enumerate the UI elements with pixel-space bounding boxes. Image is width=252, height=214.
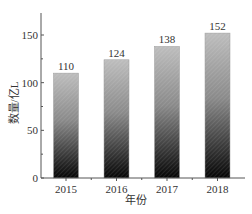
y-tick-label: 50 (27, 124, 39, 136)
x-tick-label: 2015 (55, 183, 78, 195)
bar-hatch (54, 73, 79, 178)
bar-hatch (155, 46, 180, 178)
bars-group (54, 33, 231, 178)
y-tick-label: 0 (33, 172, 39, 184)
bar-chart: 110124138152 2015201620172018050100150 年… (0, 0, 252, 214)
y-axis-title: 数量/亿L (8, 81, 20, 124)
bar-value-label: 138 (159, 33, 176, 45)
bar-value-label: 110 (58, 60, 75, 72)
bar-labels-group: 110124138152 (58, 20, 226, 72)
y-tick-label: 150 (22, 29, 39, 41)
x-tick-label: 2017 (156, 183, 179, 195)
x-axis-title: 年份 (125, 193, 147, 206)
bar-hatch (205, 33, 230, 178)
x-tick-label: 2018 (207, 183, 230, 195)
bar-value-label: 152 (209, 20, 226, 32)
bar-value-label: 124 (108, 47, 125, 59)
y-tick-label: 100 (22, 77, 39, 89)
bar-hatch (104, 60, 129, 178)
